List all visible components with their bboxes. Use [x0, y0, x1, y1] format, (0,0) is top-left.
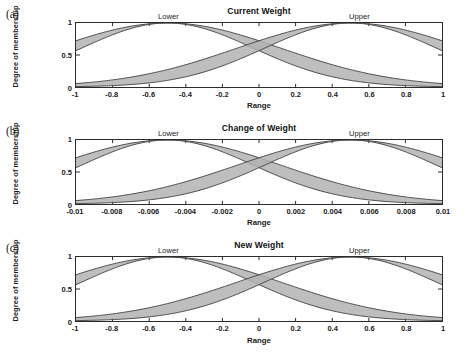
membership-curve-lower-upper	[76, 257, 442, 318]
curve-label-lower-b: Lower	[158, 129, 179, 138]
y-tick-05-a: 0.5	[32, 51, 72, 60]
x-tick-0-c: -1	[72, 324, 79, 333]
x-tick-8-a: 0.6	[364, 90, 374, 99]
y-tick-labels-c: 1 0.5 0	[28, 234, 72, 353]
plot-area-b	[75, 139, 443, 205]
curve-label-lower-a: Lower	[158, 12, 179, 21]
x-tick-3-b: -0.004	[175, 207, 196, 216]
y-tick-05-c: 0.5	[32, 285, 72, 294]
x-tick-7-c: 0.4	[327, 324, 337, 333]
x-tick-2-c: -0.6	[142, 324, 155, 333]
x-tick-7-b: 0.004	[323, 207, 342, 216]
y-tick-labels-a: 1 0.5 0	[28, 0, 72, 119]
x-tick-3-c: -0.4	[179, 324, 192, 333]
x-axis-label-a: Range	[75, 101, 443, 110]
x-tick-10-a: 1	[441, 90, 445, 99]
x-tick-1-a: -0.8	[105, 90, 118, 99]
y-tick-0-a: 0	[32, 84, 72, 93]
panel-title-a: Current Weight	[75, 6, 443, 16]
y-axis-label-c: Degree of membership	[11, 233, 20, 329]
x-axis-label-b: Range	[75, 218, 443, 227]
figure-container: (a) Degree of membership 1 0.5 0 Current…	[0, 0, 467, 357]
panel-b: (b) Degree of membership 1 0.5 0 Change …	[0, 117, 467, 236]
panel-c: (c) Degree of membership 1 0.5 0 New Wei…	[0, 234, 467, 353]
x-tick-8-c: 0.6	[364, 324, 374, 333]
x-tick-0-a: -1	[72, 90, 79, 99]
plot-svg-b	[76, 140, 442, 204]
membership-curve-lower-upper	[76, 140, 442, 201]
x-tick-9-c: 0.8	[401, 324, 411, 333]
curve-label-lower-c: Lower	[158, 246, 179, 255]
y-axis-label-b: Degree of membership	[11, 116, 20, 212]
membership-curve-upper-upper	[76, 257, 442, 318]
curve-label-upper-a: Upper	[349, 12, 370, 21]
x-tick-5-a: 0	[257, 90, 261, 99]
x-tick-2-b: -0.006	[138, 207, 159, 216]
membership-curve-upper-upper	[76, 23, 442, 84]
x-tick-10-b: 0.01	[436, 207, 451, 216]
x-axis-label-c: Range	[75, 336, 443, 345]
plot-svg-a	[76, 23, 442, 87]
y-tick-05-b: 0.5	[32, 168, 72, 177]
x-tick-9-a: 0.8	[401, 90, 411, 99]
x-tick-1-c: -0.8	[105, 324, 118, 333]
membership-curve-upper-upper	[76, 140, 442, 201]
x-tick-5-b: 0	[257, 207, 261, 216]
y-tick-1-a: 1	[32, 18, 72, 27]
panel-title-c: New Weight	[75, 240, 443, 250]
y-axis-label-a: Degree of membership	[11, 0, 20, 95]
y-tick-1-b: 1	[32, 135, 72, 144]
x-tick-6-a: 0.2	[291, 90, 301, 99]
x-tick-9-b: 0.008	[397, 207, 416, 216]
plot-area-a	[75, 22, 443, 88]
plot-area-c	[75, 256, 443, 322]
curve-label-upper-c: Upper	[349, 246, 370, 255]
x-tick-6-c: 0.2	[291, 324, 301, 333]
x-tick-0-b: -0.01	[66, 207, 83, 216]
x-tick-6-b: 0.002	[286, 207, 305, 216]
x-tick-2-a: -0.6	[142, 90, 155, 99]
plot-svg-c	[76, 257, 442, 321]
x-tick-7-a: 0.4	[327, 90, 337, 99]
x-tick-10-c: 1	[441, 324, 445, 333]
panel-a: (a) Degree of membership 1 0.5 0 Current…	[0, 0, 467, 119]
panel-title-b: Change of Weight	[75, 123, 443, 133]
x-tick-5-c: 0	[257, 324, 261, 333]
y-tick-0-c: 0	[32, 318, 72, 327]
x-tick-3-a: -0.4	[179, 90, 192, 99]
x-tick-4-c: -0.2	[216, 324, 229, 333]
x-tick-4-a: -0.2	[216, 90, 229, 99]
y-tick-labels-b: 1 0.5 0	[28, 117, 72, 236]
x-tick-8-b: 0.006	[360, 207, 379, 216]
curve-label-upper-b: Upper	[349, 129, 370, 138]
y-tick-1-c: 1	[32, 252, 72, 261]
x-tick-1-b: -0.008	[101, 207, 122, 216]
x-tick-4-b: -0.002	[212, 207, 233, 216]
membership-curve-lower-upper	[76, 23, 442, 84]
